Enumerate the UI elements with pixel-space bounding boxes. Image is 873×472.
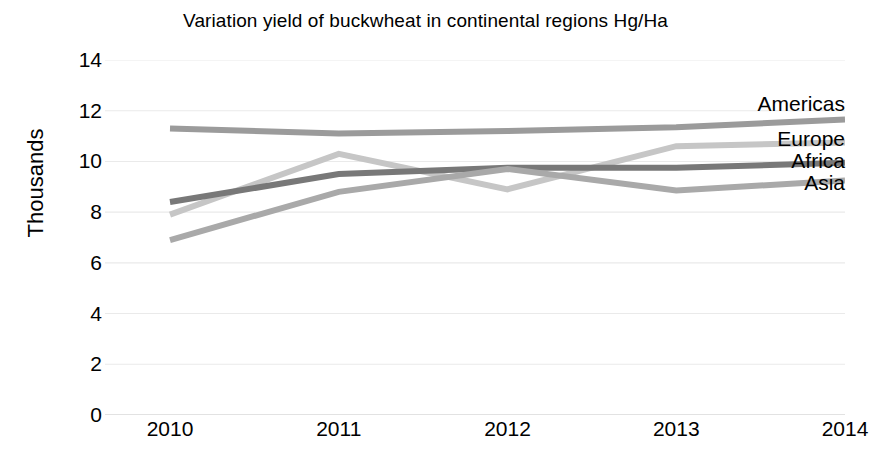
y-tick-label: 10	[56, 150, 102, 171]
x-tick-label: 2011	[279, 418, 399, 439]
series-label-africa: Africa	[791, 150, 845, 171]
x-tick-label: 2013	[616, 418, 736, 439]
y-tick-label: 0	[56, 404, 102, 425]
series-label-asia: Asia	[804, 172, 845, 193]
x-axis-tick-labels: 20102011201220132014	[105, 418, 845, 458]
y-tick-label: 2	[56, 353, 102, 374]
y-tick-label: 8	[56, 201, 102, 222]
plot-svg	[105, 60, 845, 415]
y-tick-label: 14	[56, 49, 102, 70]
y-tick-label: 12	[56, 100, 102, 121]
gridlines	[105, 60, 845, 415]
x-tick-label: 2012	[448, 418, 568, 439]
series-label-americas: Americas	[757, 93, 845, 114]
y-tick-label: 6	[56, 252, 102, 273]
x-tick-label: 2010	[110, 418, 230, 439]
chart-title: Variation yield of buckwheat in continen…	[0, 10, 851, 32]
series-legend: AmericasEuropeAfricaAsia	[736, 0, 851, 472]
y-axis-tick-labels: 14121086420	[46, 0, 102, 472]
series-label-europe: Europe	[777, 128, 845, 149]
plot-area	[105, 60, 845, 415]
y-tick-label: 4	[56, 303, 102, 324]
